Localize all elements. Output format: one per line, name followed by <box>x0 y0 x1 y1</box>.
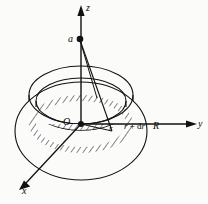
origin-dot <box>78 121 84 127</box>
ring-outer-radius-label: r + dr <box>124 122 145 131</box>
figure-canvas <box>0 0 208 204</box>
inner-radius-label: r <box>109 124 113 133</box>
z-axis-label: z <box>86 3 90 13</box>
ring-outer-radius-dr: r <box>142 121 146 131</box>
ring-annulus <box>0 60 208 170</box>
field-point-dot <box>77 36 84 43</box>
y-axis-arrowhead <box>186 120 197 127</box>
field-point-label: a <box>68 34 73 44</box>
origin-label: O <box>63 117 70 127</box>
disc-radius-label: R <box>153 121 159 131</box>
z-axis-arrowhead <box>77 5 84 16</box>
physics-figure: z a O r r + dr R y x <box>0 0 208 204</box>
y-axis-label: y <box>198 119 202 129</box>
line-a-to-ring-secondary <box>80 40 97 98</box>
ring-outer-radius-plus: + <box>128 121 138 131</box>
x-axis-label: x <box>22 186 26 196</box>
